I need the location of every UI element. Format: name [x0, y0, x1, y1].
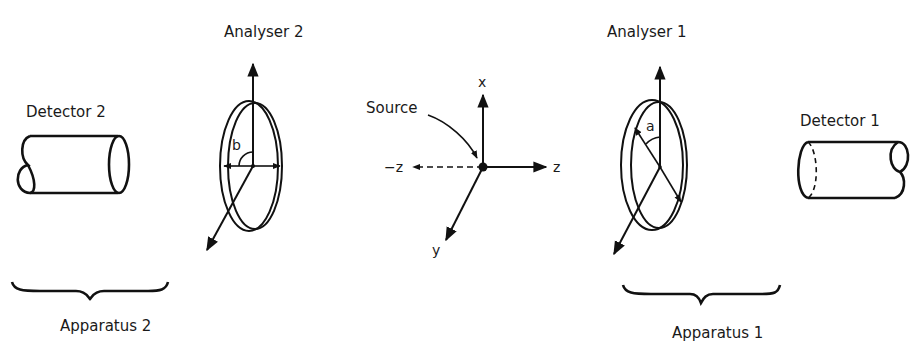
- source-point: [479, 163, 488, 172]
- source-label: Source: [366, 99, 418, 117]
- brace-1-icon: [623, 285, 780, 303]
- analyser-1-lower-tilted-arrow: [660, 167, 681, 202]
- detector-2-cylinder-icon: [18, 136, 129, 193]
- detector-1-label: Detector 1: [800, 112, 880, 130]
- neg-z-axis-label: −z: [384, 159, 403, 175]
- apparatus-2-brace: Apparatus 2: [12, 282, 168, 335]
- analyser-2-label: Analyser 2: [224, 23, 304, 41]
- y-axis-arrow: [446, 167, 483, 240]
- angle-a-arc: [646, 137, 660, 144]
- detector-1-cylinder-icon: [798, 142, 908, 198]
- apparatus-1-brace: Apparatus 1: [623, 285, 780, 342]
- analyser-1-center-dot: [658, 165, 662, 169]
- angle-a-label: a: [646, 118, 655, 134]
- analyser-2: Analyser 2 b: [207, 23, 304, 250]
- source-axes: Source x z −z y: [366, 74, 560, 258]
- apparatus-1-label: Apparatus 1: [672, 324, 763, 342]
- y-axis-label: y: [432, 242, 440, 258]
- angle-b-arc: [239, 152, 253, 166]
- analyser-1-label: Analyser 1: [607, 23, 687, 41]
- apparatus-2-label: Apparatus 2: [60, 317, 151, 335]
- analyser-2-diagonal-arrow: [207, 166, 253, 250]
- angle-b-label: b: [232, 137, 241, 153]
- z-axis-label: z: [553, 159, 560, 175]
- epr-apparatus-diagram: Detector 2 Analyser 2 b Source: [0, 0, 914, 353]
- detector-1: Detector 1: [798, 112, 908, 198]
- analyser-1: Analyser 1 a: [607, 23, 687, 254]
- x-axis-label: x: [478, 74, 486, 90]
- analyser-2-center-dot: [251, 164, 255, 168]
- detector-2: Detector 2: [18, 103, 129, 193]
- brace-2-icon: [12, 282, 168, 299]
- source-pointer-arrow: [428, 115, 477, 158]
- detector-2-label: Detector 2: [26, 103, 106, 121]
